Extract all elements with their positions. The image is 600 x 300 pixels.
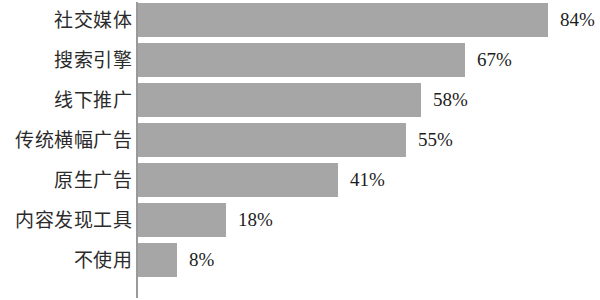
bar xyxy=(138,3,548,37)
bar-row: 搜索引擎67% xyxy=(0,40,600,80)
bar-value-label: 67% xyxy=(477,40,512,80)
category-label: 内容发现工具 xyxy=(15,200,132,240)
bar xyxy=(138,83,421,117)
bar-chart: 社交媒体84%搜索引擎67%线下推广58%传统横幅广告55%原生广告41%内容发… xyxy=(0,0,600,300)
bar-row: 传统横幅广告55% xyxy=(0,120,600,160)
bar-row: 社交媒体84% xyxy=(0,0,600,40)
bar-row: 内容发现工具18% xyxy=(0,200,600,240)
category-label: 传统横幅广告 xyxy=(15,120,132,160)
bar-value-label: 58% xyxy=(433,80,468,120)
bar-row: 原生广告41% xyxy=(0,160,600,200)
plot-area: 社交媒体84%搜索引擎67%线下推广58%传统横幅广告55%原生广告41%内容发… xyxy=(0,0,600,300)
bar-value-label: 84% xyxy=(560,0,595,40)
category-label: 原生广告 xyxy=(54,160,132,200)
bar xyxy=(138,243,177,277)
bar-value-label: 8% xyxy=(189,240,214,280)
category-label: 线下推广 xyxy=(54,80,132,120)
category-label: 搜索引擎 xyxy=(54,40,132,80)
bar-value-label: 55% xyxy=(418,120,453,160)
bar xyxy=(138,123,406,157)
category-label: 社交媒体 xyxy=(54,0,132,40)
category-label: 不使用 xyxy=(74,240,133,280)
bar-row: 不使用8% xyxy=(0,240,600,280)
bar xyxy=(138,203,226,237)
bar-row: 线下推广58% xyxy=(0,80,600,120)
bar-value-label: 41% xyxy=(350,160,385,200)
bar-value-label: 18% xyxy=(238,200,273,240)
bar xyxy=(138,163,338,197)
bar xyxy=(138,43,465,77)
